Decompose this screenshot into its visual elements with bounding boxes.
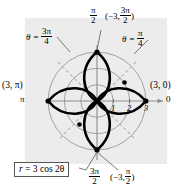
- point-label-minus3-3pi-over-2: (−3, 3π 2 ): [105, 6, 134, 26]
- label-theta-3pi-over-4: θ = 3π 4: [26, 27, 52, 47]
- equation-lhs: r: [19, 164, 23, 174]
- equation-rhs: 3 cos 2θ: [33, 164, 64, 174]
- fraction-denominator: 2: [90, 16, 97, 25]
- point-label-close: ): [131, 11, 134, 21]
- label-theta-pi-over-4: θ = π 4: [122, 29, 144, 49]
- fraction-denominator: 4: [41, 37, 52, 46]
- equation-callout-box: r = 3 cos 2θ: [14, 162, 69, 177]
- fraction-pi-2: π 2: [90, 6, 97, 26]
- fraction-3pi-2: 3π 2: [120, 6, 131, 26]
- axis-label-pi-over-2-top: π 2: [90, 6, 97, 26]
- point-label-open: (−3,: [105, 11, 120, 21]
- point-label-open: (−3,: [110, 172, 125, 182]
- fraction-denominator: 2: [89, 177, 100, 186]
- axis-label-3pi-over-2-bottom: 3π 2: [89, 167, 100, 187]
- axis-label-pi-left: π: [20, 95, 25, 104]
- fraction-denominator: 2: [120, 16, 131, 25]
- point-label-3-pi: (3, π): [2, 81, 23, 91]
- radial-tick-label-3: 3: [144, 104, 148, 113]
- point-label-minus3-pi-over-2: (−3, π 2 ): [110, 167, 134, 187]
- radial-tick-label-1: 1: [111, 104, 115, 113]
- polar-rose-figure: θ = 3π 4 θ = π 4 π 2 (−3, 3π 2 ) (3, π) …: [0, 0, 188, 195]
- fraction-denominator: 4: [137, 39, 144, 48]
- radial-tick-label-2: 2: [127, 104, 131, 113]
- fraction-3pi-2: 3π 2: [89, 167, 100, 187]
- fraction-3pi-4: 3π 4: [41, 27, 52, 47]
- label-theta-pi-over-4-prefix: θ =: [122, 34, 135, 44]
- point-label-3-0: (3, 0): [150, 81, 171, 91]
- label-theta-3pi-over-4-prefix: θ =: [26, 32, 39, 42]
- equation-equals: =: [25, 164, 30, 174]
- axis-label-zero-right: 0: [166, 95, 171, 104]
- point-label-close: ): [131, 172, 134, 182]
- fraction-pi-4: π 4: [137, 29, 144, 49]
